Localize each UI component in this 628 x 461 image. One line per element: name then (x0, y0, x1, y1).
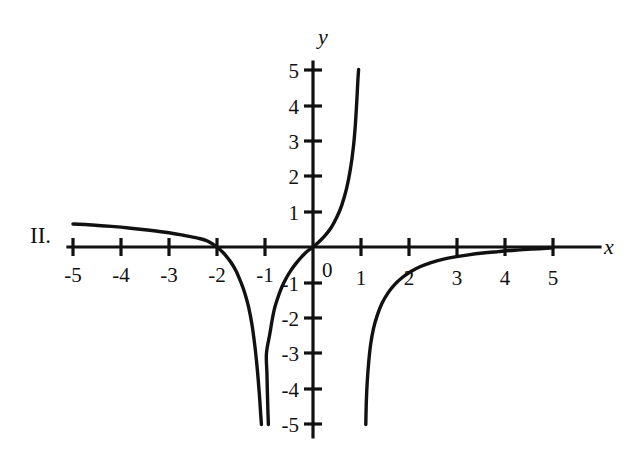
y-axis-label: y (316, 24, 328, 49)
y-tick-label-neg5: -5 (282, 413, 300, 437)
x-tick-label-neg4: -4 (112, 263, 130, 287)
x-tick-label-neg2: -2 (208, 263, 226, 287)
y-tick-label-neg2: -2 (282, 307, 300, 331)
y-tick-label-1: 1 (289, 201, 300, 225)
graph-figure: -5 -4 -3 -2 -1 1 2 3 4 5 5 4 3 2 1 -1 -2… (0, 0, 628, 461)
y-tick-label-4: 4 (289, 95, 300, 119)
panel-label: II. (30, 223, 51, 248)
x-tick-label-4: 4 (500, 266, 511, 290)
y-tick-label-neg3: -3 (282, 342, 300, 366)
x-tick-label-neg1: -1 (256, 263, 274, 287)
x-tick-label-neg3: -3 (160, 263, 178, 287)
x-tick-label-neg5: -5 (64, 263, 82, 287)
origin-label: 0 (322, 258, 333, 282)
y-tick-label-2: 2 (289, 165, 300, 189)
x-tick-label-1: 1 (356, 266, 367, 290)
y-tick-label-neg4: -4 (282, 378, 300, 402)
y-tick-label-5: 5 (289, 59, 300, 83)
x-axis-label: x (603, 234, 614, 259)
coordinate-plane: -5 -4 -3 -2 -1 1 2 3 4 5 5 4 3 2 1 -1 -2… (0, 0, 628, 461)
x-tick-label-3: 3 (452, 266, 463, 290)
x-tick-label-5: 5 (548, 266, 559, 290)
y-tick-label-3: 3 (289, 130, 300, 154)
